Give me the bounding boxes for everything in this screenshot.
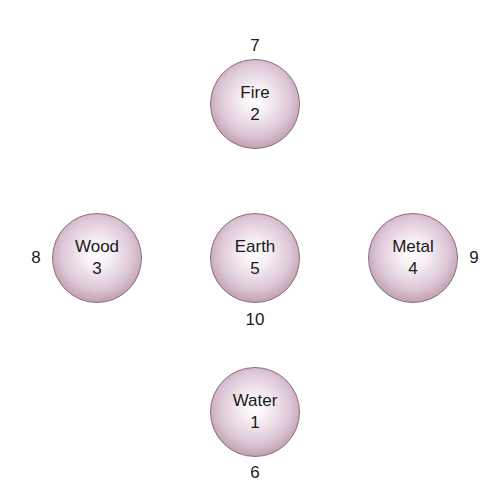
water-label: Water: [233, 391, 278, 411]
water-inner-number: 1: [250, 413, 259, 433]
metal-label: Metal: [392, 237, 434, 257]
fire-inner-number: 2: [250, 105, 259, 125]
fire-outer-number: 7: [240, 36, 270, 56]
fire-label: Fire: [240, 83, 269, 103]
earth-outer-number: 10: [240, 310, 270, 330]
earth-label: Earth: [235, 237, 276, 257]
metal-inner-number: 4: [408, 259, 417, 279]
fire-node: Fire 2: [210, 59, 300, 149]
water-node: Water 1: [210, 367, 300, 457]
wood-inner-number: 3: [92, 259, 101, 279]
metal-outer-number: 9: [459, 248, 489, 268]
metal-node: Metal 4: [368, 213, 458, 303]
water-outer-number: 6: [240, 463, 270, 483]
wood-node: Wood 3: [52, 213, 142, 303]
wood-outer-number: 8: [21, 248, 51, 268]
earth-node: Earth 5: [210, 213, 300, 303]
wood-label: Wood: [75, 237, 119, 257]
earth-inner-number: 5: [250, 259, 259, 279]
